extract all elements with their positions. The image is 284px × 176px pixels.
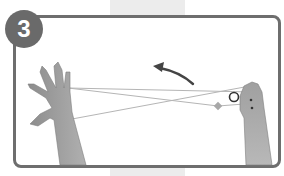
step-number: 3: [17, 15, 30, 43]
ring-marker-icon: [230, 93, 239, 102]
open-hand-icon: [28, 62, 86, 165]
curved-arrow-left-icon: [153, 62, 193, 84]
step-number-badge: 3: [5, 10, 43, 48]
string-loop: [68, 86, 252, 119]
diamond-marker-icon: [214, 102, 222, 110]
fist-hand-icon: [240, 82, 272, 165]
